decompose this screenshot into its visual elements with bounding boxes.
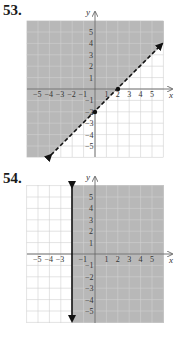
x-tick-label: −4 bbox=[44, 90, 53, 99]
y-tick-label: −4 bbox=[85, 131, 94, 140]
y-tick-label: 5 bbox=[89, 193, 93, 202]
y-tick-label: 1 bbox=[89, 239, 93, 248]
y-tick-label: −2 bbox=[85, 108, 94, 117]
y-tick-label: −1 bbox=[85, 261, 94, 270]
x-tick-label: 3 bbox=[127, 90, 131, 99]
y-tick-label: −1 bbox=[85, 96, 94, 105]
y-tick-label: 2 bbox=[89, 62, 93, 71]
x-tick-label: 5 bbox=[150, 255, 154, 264]
x-tick-label: 2 bbox=[116, 255, 120, 264]
x-tick-label: 2 bbox=[116, 90, 120, 99]
y-axis-label: y bbox=[85, 172, 90, 182]
graph-53: x y −5−4−3−2−112345 54321−1−2−3−4−5 bbox=[0, 0, 191, 169]
y-tick-label: 1 bbox=[89, 74, 93, 83]
y-tick-label: 2 bbox=[89, 227, 93, 236]
x-axis-label: x bbox=[168, 255, 173, 265]
x-tick-label: 4 bbox=[139, 255, 143, 264]
point-0-neg2 bbox=[93, 110, 97, 114]
x-tick-label: −2 bbox=[67, 90, 76, 99]
x-tick-label: −3 bbox=[56, 90, 65, 99]
y-tick-label: −3 bbox=[85, 284, 94, 293]
point-2-0 bbox=[116, 87, 120, 91]
y-tick-label: 4 bbox=[89, 204, 93, 213]
x-tick-label: −5 bbox=[33, 255, 42, 264]
y-tick-label: 3 bbox=[89, 216, 93, 225]
y-tick-label: −2 bbox=[85, 273, 94, 282]
y-axis-label: y bbox=[85, 7, 90, 17]
x-axis-label: x bbox=[168, 90, 173, 100]
x-tick-label: −5 bbox=[33, 90, 42, 99]
x-tick-label: −3 bbox=[56, 255, 65, 264]
x-tick-label: 4 bbox=[139, 90, 143, 99]
x-tick-label: 5 bbox=[150, 90, 154, 99]
y-tick-label: 5 bbox=[89, 28, 93, 37]
x-tick-label: −4 bbox=[44, 255, 53, 264]
graph-54: x y −5−4−3−112345 54321−1−2−3−4−5 bbox=[0, 169, 191, 338]
x-tick-label: 3 bbox=[127, 255, 131, 264]
y-tick-label: −4 bbox=[85, 296, 94, 305]
y-tick-label: 4 bbox=[89, 39, 93, 48]
y-tick-label: 3 bbox=[89, 51, 93, 60]
y-tick-label: −5 bbox=[85, 307, 94, 316]
x-tick-label: 1 bbox=[104, 255, 108, 264]
y-tick-label: −5 bbox=[85, 142, 94, 151]
